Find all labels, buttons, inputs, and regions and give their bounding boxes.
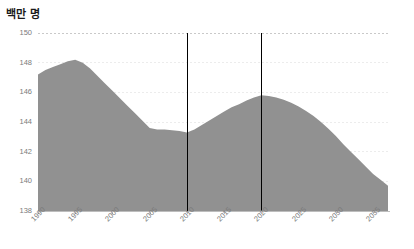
chart-plot-area bbox=[0, 0, 414, 249]
y-tick-label: 146 bbox=[10, 87, 32, 96]
y-tick-label: 148 bbox=[10, 58, 32, 67]
y-tick-label: 142 bbox=[10, 147, 32, 156]
area-series bbox=[38, 60, 388, 211]
y-tick-label: 138 bbox=[10, 206, 32, 215]
y-tick-label: 140 bbox=[10, 176, 32, 185]
population-area-chart: 백만 명 150148146144142140138 1990199520002… bbox=[0, 0, 414, 249]
y-tick-label: 150 bbox=[10, 28, 32, 37]
y-tick-label: 144 bbox=[10, 117, 32, 126]
